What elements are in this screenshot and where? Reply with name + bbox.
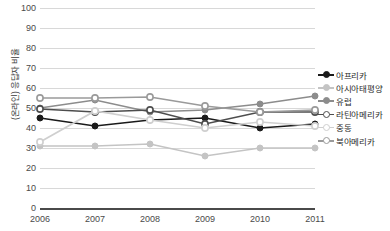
data-point: [202, 125, 208, 131]
legend-item[interactable]: 아시아태평양: [318, 81, 390, 94]
legend-marker-dot: [323, 97, 330, 104]
legend-marker-dot: [323, 124, 330, 131]
x-axis-line: [40, 208, 315, 210]
data-point: [257, 145, 263, 151]
data-point: [257, 101, 263, 107]
legend-item[interactable]: 북아메리카: [318, 134, 390, 147]
legend-marker-dot: [323, 111, 330, 118]
legend-marker-icon: [318, 121, 334, 133]
legend-item[interactable]: 유럽: [318, 94, 390, 107]
data-point: [147, 117, 153, 123]
series-layer: [40, 8, 315, 208]
data-point: [257, 125, 263, 131]
y-axis-tick-label: 60: [10, 83, 36, 93]
legend-marker-dot: [323, 71, 330, 78]
legend-label: 유럽: [334, 95, 351, 107]
data-point: [147, 107, 153, 113]
legend-item[interactable]: 라틴아메리카: [318, 108, 390, 121]
data-point: [202, 115, 208, 121]
data-point: [37, 139, 43, 145]
legend-label: 아프리카: [334, 69, 367, 81]
y-axis-tick-label: 100: [10, 3, 36, 13]
plot-area: [40, 8, 315, 208]
legend-item[interactable]: 아프리카: [318, 68, 390, 81]
legend-label: 라틴아메리카: [334, 108, 382, 120]
y-axis-ticks: 0102030405060708090100: [6, 0, 36, 231]
series-아시아태평양: [37, 141, 318, 159]
data-point: [257, 119, 263, 125]
series-line: [40, 144, 315, 156]
legend-marker-icon: [318, 135, 334, 147]
x-axis-tick-label: 2007: [85, 214, 105, 224]
y-axis-tick-label: 30: [10, 143, 36, 153]
legend-label: 중동: [334, 121, 351, 133]
data-point: [147, 141, 153, 147]
x-axis-tick-label: 2011: [305, 214, 324, 224]
data-point: [92, 143, 98, 149]
data-point: [37, 95, 43, 101]
y-axis-tick-label: 70: [10, 63, 36, 73]
legend: 아프리카아시아태평양유럽라틴아메리카중동북아메리카: [318, 68, 390, 147]
legend-item[interactable]: 중동: [318, 121, 390, 134]
y-axis-tick-label: 80: [10, 43, 36, 53]
data-point: [147, 94, 153, 100]
data-point: [202, 103, 208, 109]
legend-marker-icon: [318, 108, 334, 120]
y-axis-tick-label: 0: [10, 203, 36, 213]
legend-marker-dot: [323, 84, 330, 91]
series-line: [40, 97, 315, 112]
line-chart: (온라인) 응답자 비율 0102030405060708090100 아프리카…: [0, 0, 390, 231]
data-point: [257, 109, 263, 115]
legend-label: 북아메리카: [334, 135, 375, 147]
x-axis-tick-label: 2009: [195, 214, 215, 224]
data-point: [37, 106, 43, 112]
x-axis-tick-label: 2010: [250, 214, 270, 224]
data-point: [92, 95, 98, 101]
legend-marker-dot: [323, 137, 330, 144]
data-point: [202, 153, 208, 159]
legend-label: 아시아태평양: [334, 82, 382, 94]
legend-marker-icon: [318, 69, 334, 81]
legend-marker-icon: [318, 82, 334, 94]
y-axis-tick-label: 50: [10, 103, 36, 113]
y-axis-tick-label: 90: [10, 23, 36, 33]
data-point: [92, 123, 98, 129]
legend-marker-icon: [318, 95, 334, 107]
y-axis-tick-label: 40: [10, 123, 36, 133]
data-point: [92, 108, 98, 114]
y-axis-tick-label: 10: [10, 183, 36, 193]
x-axis-tick-label: 2006: [30, 214, 50, 224]
x-axis-tick-label: 2008: [140, 214, 160, 224]
y-axis-tick-label: 20: [10, 163, 36, 173]
data-point: [37, 115, 43, 121]
